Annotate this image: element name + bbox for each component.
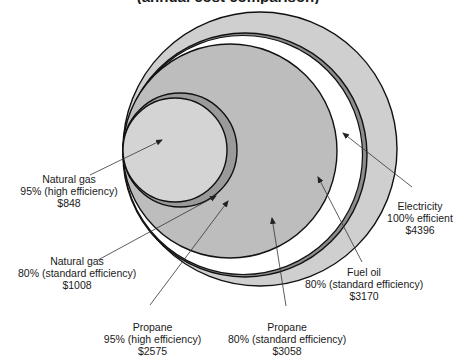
fuel-name: Natural gas [10,173,128,185]
fuel-efficiency: 95% (high efficiency) [100,333,205,345]
fuel-name: Propane [228,321,346,333]
label-natural-gas-standard: Natural gas 80% (standard efficiency) $1… [18,255,136,291]
fuel-name: Electricity [384,200,456,212]
fuel-cost: $3058 [228,345,346,357]
fuel-cost: $3170 [305,290,423,302]
fuel-efficiency: 80% (standard efficiency) [305,278,423,290]
fuel-name: Propane [100,321,205,333]
label-propane-standard: Propane 80% (standard efficiency) $3058 [228,321,346,357]
circle-natural-gas-high [123,98,227,202]
fuel-efficiency: 95% (high efficiency) [10,185,128,197]
fuel-cost: $848 [10,197,128,209]
fuel-name: Natural gas [18,255,136,267]
label-natural-gas-high: Natural gas 95% (high efficiency) $848 [10,173,128,209]
fuel-cost: $1008 [18,279,136,291]
fuel-cost: $2575 [100,345,205,357]
fuel-efficiency: 100% efficient [384,212,456,224]
label-electricity: Electricity 100% efficient $4396 [384,200,456,236]
fuel-name: Fuel oil [305,266,423,278]
fuel-efficiency: 80% (standard efficiency) [18,267,136,279]
label-propane-high: Propane 95% (high efficiency) $2575 [100,321,205,357]
fuel-cost: $4396 [384,224,456,236]
fuel-efficiency: 80% (standard efficiency) [228,333,346,345]
label-fuel-oil: Fuel oil 80% (standard efficiency) $3170 [305,266,423,302]
